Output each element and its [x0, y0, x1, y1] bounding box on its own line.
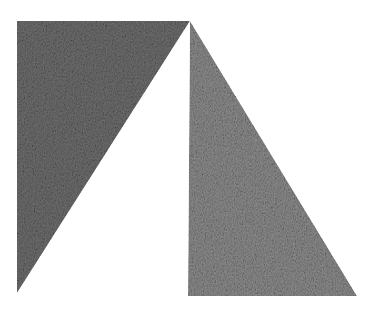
drawing-canvas	[0, 0, 382, 311]
right-triangle	[188, 21, 357, 296]
left-triangle	[17, 21, 190, 293]
